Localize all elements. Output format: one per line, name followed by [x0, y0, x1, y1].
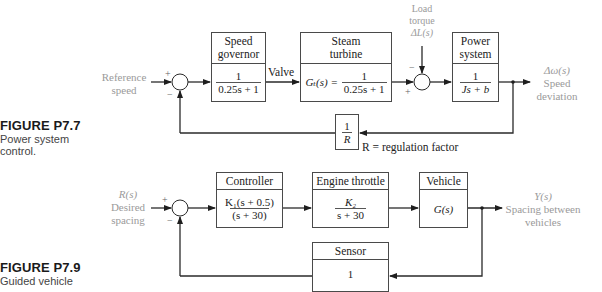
label-line: speed [100, 84, 148, 97]
label-line: Load [404, 3, 440, 15]
block-header: Engine throttle [313, 173, 388, 190]
block-transfer-function: 1 0.25s + 1 [212, 64, 265, 101]
figure-title: FIGURE P7.9 [0, 260, 81, 275]
header-line: system [460, 48, 492, 61]
plus-sign: + [162, 194, 168, 205]
valve-label: Valve [268, 66, 294, 78]
plus-sign: + [405, 86, 411, 97]
header-line: governor [218, 48, 260, 61]
block-sensor: Sensor 1 [312, 242, 389, 292]
block-speed-governor: Speed governor 1 0.25s + 1 [211, 32, 266, 102]
minus-sign: − [409, 62, 415, 73]
minus-sign: − [167, 89, 173, 100]
label-line: Reference [100, 71, 148, 84]
block-transfer-function: K₂ s + 30 [313, 190, 388, 227]
block-feedback-regulation: 1 R [335, 114, 359, 150]
input-label-reference-speed: Reference speed [100, 71, 148, 97]
label-line: Y(s) [503, 190, 583, 203]
header-line: Speed [218, 35, 260, 48]
block-transfer-function: Gₜ(s) = 1 0.25s + 1 [301, 64, 391, 101]
caption-line: Guided vehicle [0, 275, 73, 287]
output-label-speed-deviation: Δω(s) Speed deviation [532, 64, 582, 103]
block-header: Speed governor [212, 33, 265, 64]
header-line: Steam [330, 35, 363, 48]
denominator: s + 30 [335, 208, 366, 221]
label-line: R(s) [108, 188, 148, 201]
block-vehicle: Vehicle G(s) [419, 172, 468, 228]
numerator: 1 [234, 70, 244, 82]
caption-line: Power system [0, 133, 69, 145]
input-label-desired-spacing: R(s) Desired spacing [108, 188, 148, 227]
label-line: Spacing between [503, 203, 583, 216]
label-line: ΔL(s) [404, 27, 440, 39]
label-line: torque [404, 15, 440, 27]
minus-sign: − [167, 215, 173, 226]
label-line: spacing [108, 214, 148, 227]
numerator: 1 [471, 70, 481, 82]
numerator: 1 [359, 70, 369, 82]
numerator: 1 [342, 120, 352, 132]
block-header: Controller [217, 173, 282, 190]
numerator: K₁(s + 0.5) [223, 196, 276, 208]
label-line: Δω(s) [532, 64, 582, 77]
denominator: 0.25s + 1 [342, 82, 387, 95]
output-label-spacing: Y(s) Spacing between vehicles [503, 190, 583, 229]
label-line: deviation [532, 90, 582, 103]
plus-sign: + [165, 68, 171, 79]
block-transfer-function: K₁(s + 0.5) (s + 30) [217, 190, 282, 227]
block-transfer-function: G(s) [420, 190, 467, 227]
block-header: Vehicle [420, 173, 467, 190]
numerator: K₂ [343, 196, 358, 208]
block-header: Steam turbine [301, 33, 391, 64]
block-header: Sensor [313, 243, 388, 260]
transfer-prefix: Gₜ(s) = [305, 76, 337, 89]
figure-title: FIGURE P7.7 [0, 118, 81, 133]
block-transfer-function: 1 [313, 260, 388, 291]
denominator: Js + b [460, 82, 492, 95]
block-header: Power system [453, 33, 498, 64]
disturbance-label-load-torque: Load torque ΔL(s) [404, 3, 440, 39]
figure-caption: Power system control. [0, 133, 69, 157]
block-power-system: Power system 1 Js + b [452, 32, 499, 102]
denominator: 0.25s + 1 [216, 82, 261, 95]
denominator: (s + 30) [230, 208, 268, 221]
header-line: Power [460, 35, 492, 48]
denominator: R [342, 132, 353, 145]
block-controller: Controller K₁(s + 0.5) (s + 30) [216, 172, 283, 228]
label-line: Desired [108, 201, 148, 214]
block-engine-throttle: Engine throttle K₂ s + 30 [312, 172, 389, 228]
block-transfer-function: 1 Js + b [453, 64, 498, 101]
label-line: Speed [532, 77, 582, 90]
header-line: turbine [330, 48, 363, 61]
regulation-factor-note: R = regulation factor [362, 141, 458, 153]
figure-caption: Guided vehicle [0, 275, 73, 287]
label-line: vehicles [503, 216, 583, 229]
block-steam-turbine: Steam turbine Gₜ(s) = 1 0.25s + 1 [300, 32, 392, 102]
caption-line: control. [0, 145, 69, 157]
